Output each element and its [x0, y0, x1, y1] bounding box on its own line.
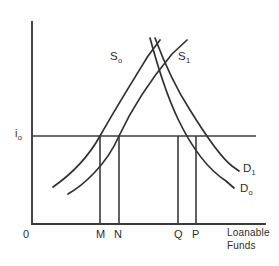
curve-label-S0-subscript: o — [118, 56, 122, 65]
supply-curve-S1 — [68, 40, 187, 194]
loanable-funds-diagram: io 0 M N Q P LoanableFunds So S1 D1 Do — [0, 0, 279, 266]
tick-label-P: P — [192, 229, 200, 240]
curve-label-S0: So — [110, 51, 122, 65]
origin-label: 0 — [23, 229, 29, 240]
tick-label-Q: Q — [174, 229, 183, 240]
curve-label-D1-letter: D — [243, 162, 252, 174]
curve-label-S0-letter: S — [110, 50, 118, 62]
curve-label-D1: D1 — [243, 163, 256, 177]
curve-label-D0: Do — [240, 183, 253, 197]
curve-label-S1-subscript: 1 — [186, 56, 190, 65]
supply-curve-S0 — [53, 40, 160, 187]
x-axis-title-line-1: Loanable — [227, 227, 270, 238]
curve-label-S1: S1 — [178, 51, 190, 65]
curve-label-D1-subscript: 1 — [252, 168, 256, 177]
tick-label-M: M — [96, 229, 105, 240]
x-axis-title-line-2: Funds — [227, 240, 256, 251]
tick-label-N: N — [114, 229, 122, 240]
rate-label-subscript: o — [18, 133, 22, 142]
x-axis-title: LoanableFunds — [227, 227, 270, 252]
curve-label-D0-subscript: o — [249, 188, 253, 197]
curve-label-D0-letter: D — [240, 182, 249, 194]
curve-label-S1-letter: S — [178, 50, 186, 62]
rate-label-io: io — [15, 128, 22, 142]
